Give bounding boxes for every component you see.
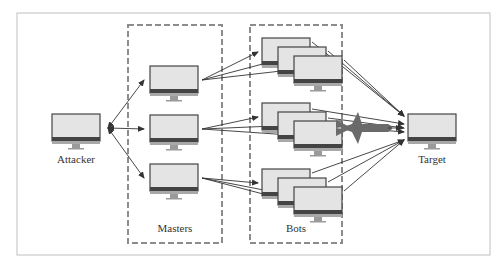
diagram-canvas [0, 0, 504, 267]
target-computer-icon [408, 114, 456, 150]
master-computer-icon [150, 164, 198, 200]
attacker-computer-icon [52, 114, 100, 150]
bot-computer-icon [294, 187, 342, 223]
ddos-diagram: Attacker Masters Bots Target [0, 0, 504, 267]
connection-arrow [108, 128, 144, 129]
connection-arrow [344, 60, 404, 116]
bots-label: Bots [256, 222, 336, 234]
connection-arrow [202, 70, 290, 80]
connection-arrow [344, 140, 404, 191]
target-label: Target [392, 153, 472, 165]
connection-arrow [108, 80, 144, 128]
attacker-label: Attacker [36, 153, 116, 165]
masters-label: Masters [135, 222, 215, 234]
master-computer-icon [150, 66, 198, 102]
bot-computer-icon [294, 121, 342, 157]
bot-computer-icon [294, 56, 342, 92]
attack-missile-icon [336, 112, 392, 144]
master-computer-icon [150, 115, 198, 151]
